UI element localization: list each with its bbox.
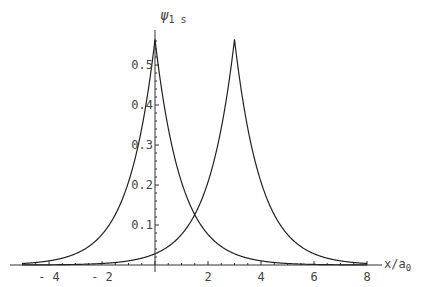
y-tick-label: 0.3 — [131, 138, 153, 152]
wavefunction-curve — [23, 39, 368, 265]
y-tick-label: 0.4 — [131, 98, 153, 112]
x-tick-label: - 4 — [38, 270, 60, 284]
x-tick-label: 6 — [310, 270, 317, 284]
y-axis-label: ψ1 s — [160, 7, 187, 25]
ticks — [23, 41, 368, 265]
plot-area: - 4- 224680.10.20.30.40.5 ψ1 s x/a0 — [0, 0, 426, 287]
y-tick-label: 0.1 — [131, 218, 153, 232]
wavefunction-curve — [23, 39, 368, 265]
x-tick-label: 2 — [204, 270, 211, 284]
x-axis-label: x/a0 — [384, 257, 411, 273]
tick-labels: - 4- 224680.10.20.30.40.5 — [38, 58, 370, 284]
y-tick-label: 0.2 — [131, 178, 153, 192]
y-tick-label: 0.5 — [131, 58, 153, 72]
x-tick-label: 4 — [257, 270, 264, 284]
x-tick-label: 8 — [363, 270, 370, 284]
axes — [10, 30, 382, 272]
x-tick-label: - 2 — [91, 270, 113, 284]
curves — [23, 39, 368, 265]
